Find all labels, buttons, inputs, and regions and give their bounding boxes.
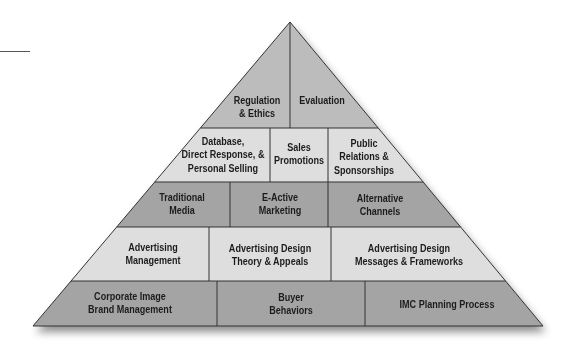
block-regulation-ethics: Regulation & Ethics <box>227 90 287 124</box>
block-e-active-marketing: E-Active Marketing <box>239 189 322 219</box>
block-advertising-design-messages: Advertising Design Messages & Frameworks <box>344 240 475 270</box>
block-traditional-media: Traditional Media <box>148 189 217 219</box>
block-imc-planning: IMC Planning Process <box>383 290 512 320</box>
block-alternative-channels: Alternative Channels <box>337 190 423 220</box>
block-evaluation: Evaluation <box>294 90 349 112</box>
block-corporate-image: Corporate Image Brand Management <box>70 288 190 318</box>
block-database-direct-personal: Database, Direct Response, & Personal Se… <box>179 132 267 178</box>
block-public-relations: Public Relations & Sponsorships <box>331 134 396 180</box>
block-advertising-design-theory: Advertising Design Theory & Appeals <box>219 240 320 270</box>
block-advertising-management: Advertising Management <box>107 239 198 269</box>
block-sales-promotions: Sales Promotions <box>272 132 325 176</box>
block-buyer-behaviors: Buyer Behaviors <box>229 289 353 319</box>
